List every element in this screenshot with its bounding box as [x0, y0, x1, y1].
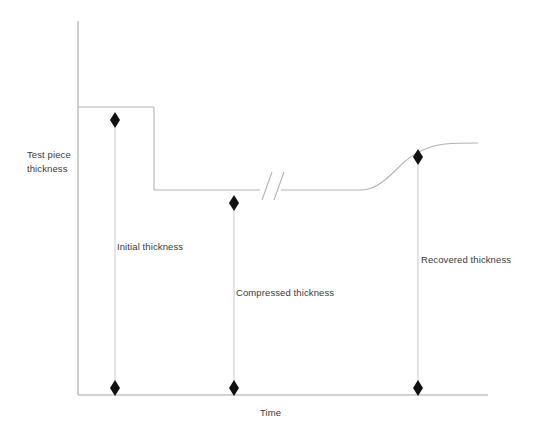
diamond-marker-compressed-bottom	[229, 380, 239, 396]
annotation-recovered-thickness: Recovered thickness	[421, 253, 511, 267]
annotation-initial-thickness: Initial thickness	[117, 240, 183, 254]
y-axis-label: Test piece thickness	[27, 148, 85, 176]
x-axis-label: Time	[260, 406, 320, 420]
diamond-marker-recovered-top	[413, 149, 423, 165]
diamond-marker-initial-top	[110, 112, 120, 128]
axis-break-slash-right	[274, 172, 284, 200]
diagram-canvas	[0, 0, 534, 431]
diamond-marker-compressed-top	[229, 195, 239, 211]
diamond-marker-recovered-bottom	[413, 380, 423, 396]
diamond-marker-initial-bottom	[110, 380, 120, 396]
axis-break-slash-left	[262, 172, 272, 200]
curve-recovery	[363, 143, 478, 190]
compression-set-diagram: Test piece thickness Time Initial thickn…	[0, 0, 534, 431]
annotation-compressed-thickness: Compressed thickness	[236, 286, 334, 300]
